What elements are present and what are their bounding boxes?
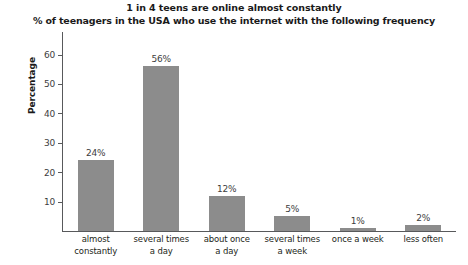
y-axis-tick: 60 — [58, 55, 62, 56]
y-axis-tick-mark — [58, 84, 62, 85]
plot-area: 102030405060 24%56%12%5%1%2% — [62, 32, 456, 232]
bar-slot: 56% — [129, 32, 195, 231]
bar-value-label: 56% — [152, 54, 171, 64]
bar-value-label: 5% — [285, 204, 299, 214]
bar[interactable] — [143, 66, 179, 231]
bar-value-label: 24% — [86, 148, 105, 158]
y-axis-tick-mark — [58, 202, 62, 203]
y-axis-tick-mark — [58, 172, 62, 173]
x-axis-category-labels: almostconstantlyseveral timesa dayabout … — [63, 234, 456, 264]
y-axis-tick-label: 60 — [44, 50, 55, 60]
bar-slot: 12% — [194, 32, 260, 231]
y-axis-tick-mark — [58, 143, 62, 144]
y-axis-tick: 40 — [58, 113, 62, 114]
y-axis-tick-label: 50 — [44, 79, 55, 89]
y-axis-tick-label: 10 — [44, 197, 55, 207]
x-axis-category-label: about oncea day — [191, 234, 263, 257]
y-axis-tick: 10 — [58, 202, 62, 203]
y-axis-tick-label: 30 — [44, 138, 55, 148]
bar-series: 24%56%12%5%1%2% — [63, 32, 456, 231]
y-axis-tick-mark — [58, 55, 62, 56]
y-axis-tick-label: 40 — [44, 109, 55, 119]
x-axis-category-label: less often — [387, 234, 459, 246]
y-axis-tick: 30 — [58, 143, 62, 144]
bar[interactable] — [78, 160, 114, 231]
y-axis-tick: 20 — [58, 172, 62, 173]
chart-title: 1 in 4 teens are online almost constantl… — [0, 1, 468, 14]
x-axis-category-label: several timesa day — [125, 234, 197, 257]
bar-slot: 5% — [260, 32, 326, 231]
x-axis-category-label: several timesa week — [256, 234, 328, 257]
bar-slot: 2% — [391, 32, 457, 231]
x-axis-category-label: once a week — [322, 234, 394, 246]
y-axis-tick-mark — [58, 113, 62, 114]
bar-slot: 24% — [63, 32, 129, 231]
bar[interactable] — [340, 228, 376, 231]
bar-value-label: 1% — [351, 216, 365, 226]
chart-subtitle: % of teenagers in the USA who use the in… — [0, 14, 468, 28]
bar[interactable] — [405, 225, 441, 231]
y-axis-tick: 50 — [58, 84, 62, 85]
bar-value-label: 12% — [217, 184, 236, 194]
y-axis-title-label: Percentage — [27, 57, 37, 114]
bar-slot: 1% — [325, 32, 391, 231]
x-axis-line — [62, 231, 456, 232]
bar-value-label: 2% — [416, 213, 430, 223]
bar[interactable] — [209, 196, 245, 231]
y-axis-tick-label: 20 — [44, 168, 55, 178]
bar[interactable] — [274, 216, 310, 231]
x-axis-category-label: almostconstantly — [60, 234, 132, 257]
chart-header: 1 in 4 teens are online almost constantl… — [0, 1, 468, 28]
y-axis-title: Percentage — [16, 36, 30, 116]
